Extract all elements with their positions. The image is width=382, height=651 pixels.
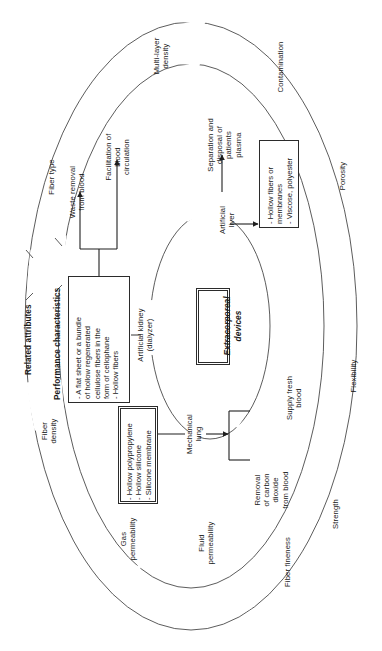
attribute-porosity: Porosity — [338, 146, 347, 206]
function-supply-fresh-blood: Supply fresh blood — [285, 359, 303, 437]
device-artificial-kidney: Artificial kidney (dialyzer) — [136, 290, 154, 380]
attribute-flexibility: Flexibility — [349, 344, 358, 408]
attribute-multi-layer-density: Multi-layer density — [152, 16, 170, 96]
attribute-fiber-type: Fiber type — [47, 142, 56, 212]
attribute-fluid-permeability: Fluid permeability — [197, 500, 215, 586]
diagram-canvas: Extracorporeal devices - A flat sheet or… — [0, 0, 382, 651]
attribute-fiber-fineness: Fiber fineness — [283, 520, 292, 604]
attribute-strength: Strength — [331, 483, 340, 545]
function-separation-disposal-plasma: Separation and disposal of patients plas… — [206, 100, 243, 190]
attribute-gas-permeability: Gas permeability — [119, 496, 137, 582]
header-performance-characteristics: Performance characteristics — [53, 250, 62, 400]
device-mechanical-lung: Mechanical lung — [185, 398, 203, 470]
function-waste-removal: Waste removal from blood — [68, 154, 86, 230]
center-box-label: Extracorporeal devices — [222, 291, 243, 361]
header-related-attributes: Related attributes — [24, 255, 33, 375]
liver-materials-text: - Hollow fibers or membranes - Viscose, … — [266, 139, 294, 224]
attribute-fiber-density: Fiber density — [40, 396, 58, 466]
lung-materials-text: - Hollow polypropylene - Hollow silicone… — [125, 405, 153, 500]
device-artificial-liver: Artificial liver — [218, 190, 236, 250]
attribute-contamination: Contamination — [276, 22, 285, 112]
function-facilitation-blood-circulation: Facilitation of blood circulation — [104, 117, 132, 197]
kidney-materials-text: - A flat sheet or a bundle of hollow reg… — [74, 277, 120, 399]
